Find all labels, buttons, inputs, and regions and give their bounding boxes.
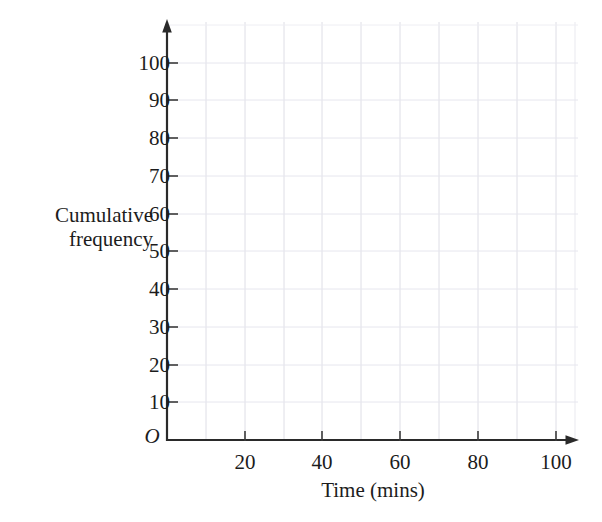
y-tick-label-100: 100: [139, 53, 171, 74]
vertical-gridlines: [167, 22, 575, 440]
y-axis-line: [162, 19, 172, 441]
y-axis-title-line-2: frequency: [55, 227, 153, 251]
y-tick-label-40: 40: [149, 279, 170, 300]
y-tick-label-70: 70: [149, 166, 170, 187]
x-tick-label-80: 80: [468, 452, 489, 473]
y-tick-label-30: 30: [149, 317, 170, 338]
x-tick-label-60: 60: [390, 452, 411, 473]
chart-canvas: [0, 0, 602, 522]
y-tick-label-10: 10: [149, 392, 170, 413]
y-tick-label-50: 50: [149, 241, 170, 262]
y-axis-title: Cumulative frequency: [55, 203, 153, 252]
x-tick-label-20: 20: [235, 452, 256, 473]
x-tick-label-40: 40: [312, 452, 333, 473]
y-axis-title-line-1: Cumulative: [55, 203, 153, 227]
y-tick-label-80: 80: [149, 128, 170, 149]
cumulative-frequency-chart: Cumulative frequency Time (mins) 100 90 …: [0, 0, 602, 522]
y-tick-label-20: 20: [149, 355, 170, 376]
x-tick-label-100: 100: [540, 452, 572, 473]
y-tick-label-90: 90: [149, 90, 170, 111]
x-axis-title: Time (mins): [321, 478, 425, 502]
y-tick-label-60: 60: [149, 204, 170, 225]
origin-label: O: [144, 426, 159, 447]
y-axis-ticks: [168, 63, 178, 402]
horizontal-gridlines: [167, 25, 578, 402]
